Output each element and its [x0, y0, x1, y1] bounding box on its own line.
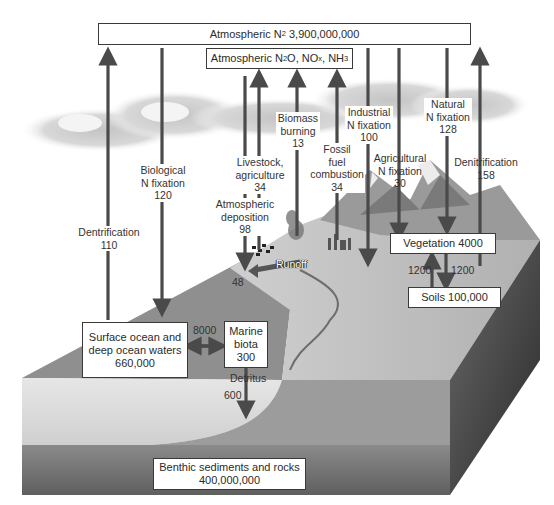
label-fossil-fuel-combustion: Fossil fuel combustion 34 [309, 143, 365, 193]
label-denitrification-land: Denitrification 158 [454, 156, 518, 181]
label-agricultural-fixation: Agricultural N fixation 30 [372, 152, 428, 190]
pool-soils: Soils 100,000 [408, 287, 501, 308]
pool-atmospheric-n2: Atmospheric N2 3,900,000,000 [98, 23, 471, 45]
label-biological-fixation: Biological N fixation 120 [138, 164, 188, 202]
nitrogen-cycle-diagram: Atmospheric N2 3,900,000,000 Atmospheric… [0, 0, 554, 505]
label-atmospheric-deposition: Atmospheric deposition 98 [214, 198, 276, 236]
value-ocean-biota-exchange: 8000 [193, 324, 216, 336]
value-runoff: 48 [232, 276, 244, 288]
value-soil-to-vegetation: 1200 [408, 264, 431, 276]
value-vegetation-to-soil: 1200 [451, 264, 474, 276]
label-natural-fixation: Natural N fixation 128 [424, 98, 472, 136]
pool-surface-ocean: Surface ocean and deep ocean waters 660,… [82, 322, 188, 378]
value-detritus: 600 [224, 389, 242, 401]
label-industrial-fixation: Industrial N fixation 100 [345, 106, 393, 144]
label-livestock-agriculture: Livestock, agriculture 34 [234, 156, 286, 194]
label-detritus: Detritus [230, 372, 266, 384]
pool-benthic-sediments: Benthic sediments and rocks 400,000,000 [153, 458, 306, 490]
pool-vegetation: Vegetation 4000 [390, 233, 496, 254]
label-runoff: Runoff [276, 258, 307, 270]
pool-marine-biota: Marine biota 300 [224, 321, 268, 368]
pool-atmospheric-n2o-nox-nh3: Atmospheric N2O, NOx, NH3 [206, 48, 353, 69]
label-dentrification-ocean: Dentrification 110 [78, 226, 140, 251]
